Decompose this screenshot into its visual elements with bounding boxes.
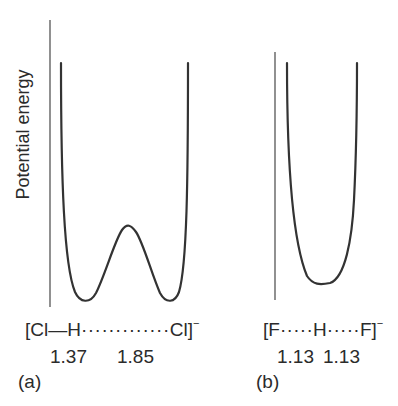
curve-b-single-well [287, 63, 357, 284]
atom-h: H [313, 319, 327, 340]
charge: − [193, 317, 199, 329]
hydrogen-bond-dots-left: ····· [280, 319, 313, 340]
distance-a-1: 1.37 [50, 347, 87, 366]
panel-label-a: (a) [18, 372, 41, 391]
atom-f-left: F [268, 319, 280, 340]
distance-a-2: 1.85 [117, 347, 154, 366]
species-label-a: [Cl—H·············Cl]− [25, 320, 199, 339]
hydrogen-bond-dots: ············· [81, 319, 170, 340]
panel-label-b: (b) [256, 372, 279, 391]
atom-f-right: F [360, 319, 372, 340]
species-label-b: [F·····H·····F]− [263, 320, 383, 339]
hydrogen-bond-dots-right: ····· [327, 319, 360, 340]
charge: − [377, 317, 383, 329]
bracket-close: ] [372, 319, 377, 340]
atom-cl-left: Cl [30, 319, 48, 340]
y-axis-label: Potential energy [13, 60, 34, 210]
curve-a-double-well [61, 63, 188, 301]
distance-b-1: 1.13 [277, 347, 314, 366]
atom-h: H [67, 319, 81, 340]
atom-cl-right: Cl [170, 319, 188, 340]
distance-b-2: 1.13 [323, 347, 360, 366]
covalent-bond: — [48, 319, 67, 340]
